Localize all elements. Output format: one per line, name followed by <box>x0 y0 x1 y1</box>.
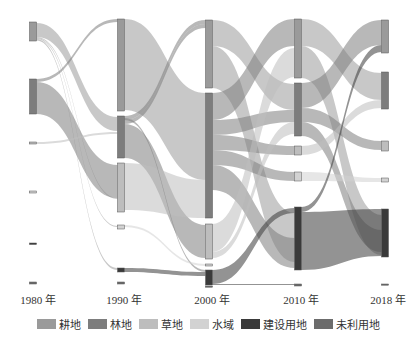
year-label-1980: 1980 年 <box>20 291 56 307</box>
sankey-node <box>30 243 37 245</box>
sankey-node <box>30 142 37 144</box>
legend-label: 耕地 <box>59 316 81 332</box>
year-label-1990: 1990 年 <box>106 291 142 307</box>
legend-swatch-icon <box>314 319 333 329</box>
sankey-node <box>206 270 213 285</box>
sankey-node <box>382 20 389 53</box>
legend-swatch-icon <box>37 319 56 329</box>
sankey-diagram <box>0 0 417 300</box>
year-label-2018: 2018 年 <box>370 291 406 307</box>
sankey-node <box>382 284 389 285</box>
sankey-node <box>295 146 302 155</box>
sankey-node <box>295 83 302 136</box>
legend-label: 林地 <box>110 316 132 332</box>
legend-label: 草地 <box>161 316 183 332</box>
legend-swatch-icon <box>241 319 260 329</box>
sankey-node <box>382 141 389 151</box>
sankey-node <box>295 207 302 270</box>
sankey-node <box>206 93 213 218</box>
sankey-node <box>382 178 389 182</box>
legend-swatch-icon <box>139 319 158 329</box>
legend-item-grassland[interactable]: 草地 <box>139 316 183 332</box>
sankey-node <box>295 172 302 181</box>
sankey-node <box>118 116 125 158</box>
flow-link <box>125 268 206 276</box>
sankey-node <box>382 72 389 109</box>
flow-link <box>302 209 382 270</box>
legend-item-cropland[interactable]: 耕地 <box>37 316 81 332</box>
sankey-node <box>118 268 125 272</box>
sankey-node <box>118 19 125 111</box>
sankey-node <box>206 224 213 259</box>
legend-item-water[interactable]: 水域 <box>190 316 234 332</box>
sankey-node <box>30 79 37 114</box>
legend-label: 水域 <box>212 316 234 332</box>
sankey-node <box>118 282 125 284</box>
legend-item-forest[interactable]: 林地 <box>88 316 132 332</box>
flow-link <box>302 172 382 182</box>
sankey-node <box>295 19 302 78</box>
sankey-node <box>30 22 37 41</box>
legend-swatch-icon <box>190 319 209 329</box>
legend: 耕地 林地 草地 水域 建设用地 未利用地 <box>0 316 417 332</box>
legend-label: 建设用地 <box>263 316 307 332</box>
sankey-node <box>30 282 37 284</box>
sankey-node <box>30 191 37 193</box>
sankey-node <box>382 209 389 257</box>
legend-item-construction[interactable]: 建设用地 <box>241 316 307 332</box>
flow-link <box>37 82 118 198</box>
sankey-node <box>206 264 213 266</box>
flow-link <box>213 284 295 285</box>
sankey-node <box>295 284 302 286</box>
legend-item-unused[interactable]: 未利用地 <box>314 316 380 332</box>
sankey-node <box>118 163 125 212</box>
year-label-2010: 2010 年 <box>283 291 319 307</box>
sankey-node <box>206 286 213 287</box>
sankey-node <box>118 225 125 229</box>
legend-label: 未利用地 <box>336 316 380 332</box>
sankey-node <box>206 20 213 88</box>
year-label-2000: 2000 年 <box>194 291 230 307</box>
legend-swatch-icon <box>88 319 107 329</box>
